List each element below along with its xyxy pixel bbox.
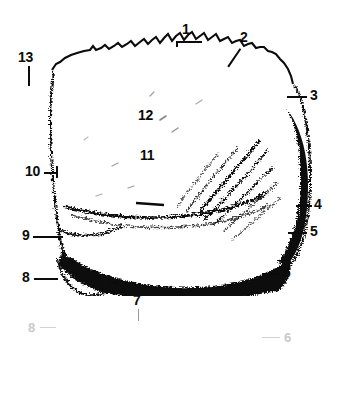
callout-label-4[interactable]: 4: [314, 197, 322, 211]
callout-leader-6: [262, 273, 280, 275]
callout-label-6[interactable]: 6: [283, 265, 291, 279]
callout-label-13[interactable]: 13: [18, 50, 33, 64]
callout-label-11[interactable]: 11: [140, 148, 154, 162]
callout-leader-1-tick: [176, 41, 178, 47]
callout-leader-8: [34, 278, 58, 280]
reflection-ghost-leader-6: [262, 337, 280, 338]
callout-label-2[interactable]: 2: [240, 30, 248, 44]
callout-leader-3: [287, 96, 307, 98]
reflection-ghost-label-6: 6: [284, 330, 291, 345]
callout-leader-10-tick: [56, 166, 58, 178]
callout-label-5[interactable]: 5: [310, 224, 318, 238]
callout-leader-5: [288, 232, 307, 234]
callout-label-9[interactable]: 9: [22, 228, 30, 242]
callout-label-3[interactable]: 3: [310, 88, 318, 102]
callout-leader-1: [176, 41, 202, 43]
callout-leader-13: [28, 66, 30, 86]
callout-leader-9: [33, 236, 63, 238]
reflection-ghost-label-8: 8: [28, 320, 35, 335]
callout-label-7[interactable]: 7: [133, 293, 141, 307]
callout-label-12[interactable]: 12: [138, 108, 153, 122]
callout-label-10[interactable]: 10: [25, 164, 40, 178]
reflection-ghost-leader-8: [40, 327, 56, 328]
callout-label-1[interactable]: 1: [182, 22, 190, 36]
anatomical-figure: 8 6 1 2 3 4 5 6 7 8 9 10 11 12 13: [0, 0, 340, 403]
callout-leader-7: [138, 309, 139, 321]
callout-leader-4: [296, 205, 312, 207]
callout-label-8[interactable]: 8: [22, 270, 30, 284]
